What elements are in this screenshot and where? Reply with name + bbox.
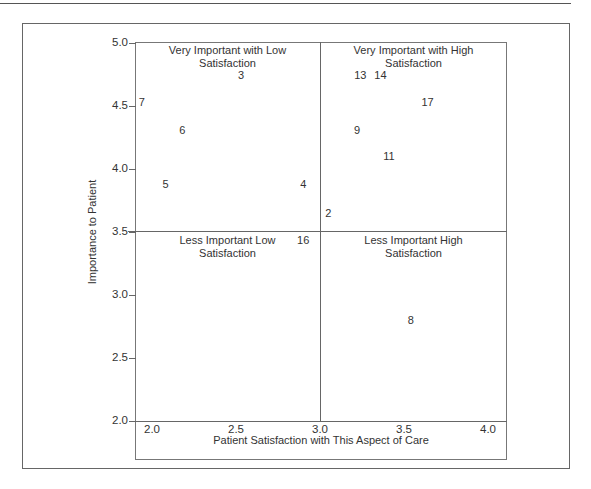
data-point-label: 13 (354, 69, 366, 81)
x-axis-label: Patient Satisfaction with This Aspect of… (135, 434, 507, 446)
quadrant-label-bottom-right: Less Important High Satisfaction (320, 234, 507, 260)
y-tick-mark (129, 295, 136, 296)
quadrant-label-bottom-left: Less Important Low Satisfaction (135, 234, 320, 260)
data-point-label: 5 (162, 178, 168, 190)
y-tick-mark (129, 106, 136, 107)
y-tick-label: 3.0 (98, 288, 128, 300)
quadrant-label-line: Very Important with High (320, 44, 507, 57)
data-point-label: 3 (238, 69, 244, 81)
y-tick-label: 4.5 (98, 99, 128, 111)
quadrant-label-top-left: Very Important with Low Satisfaction (135, 44, 320, 70)
quadrant-label-line: Less Important Low (135, 234, 320, 247)
data-point-label: 6 (179, 124, 185, 136)
top-rule (0, 3, 571, 4)
data-point-label: 8 (408, 314, 414, 326)
y-tick-mark (129, 232, 136, 233)
y-tick-label: 2.0 (98, 414, 128, 426)
data-point-label: 4 (300, 178, 306, 190)
data-point-label: 7 (139, 96, 145, 108)
data-point-label: 14 (374, 69, 386, 81)
data-point-label: 2 (325, 207, 331, 219)
quadrant-label-line: Satisfaction (320, 57, 507, 70)
data-point-label: 16 (297, 234, 309, 246)
y-tick-label: 5.0 (98, 36, 128, 48)
y-tick-label: 2.5 (98, 351, 128, 363)
quadrant-label-line: Satisfaction (135, 57, 320, 70)
quadrant-label-line: Less Important High (320, 234, 507, 247)
y-tick-label: 3.5 (98, 225, 128, 237)
horizontal-quadrant-divider (128, 231, 507, 232)
y-tick-mark (129, 169, 136, 170)
data-point-label: 11 (383, 150, 394, 162)
quadrant-label-line: Satisfaction (135, 247, 320, 260)
y-tick-mark (129, 358, 136, 359)
data-point-label: 17 (421, 96, 433, 108)
y-tick-label: 4.0 (98, 162, 128, 174)
y-axis-label: Importance to Patient (86, 180, 98, 285)
quadrant-label-line: Satisfaction (320, 247, 507, 260)
data-point-label: 9 (354, 124, 360, 136)
quadrant-label-top-right: Very Important with High Satisfaction (320, 44, 507, 70)
y-tick-mark (129, 421, 136, 422)
x-axis-line (135, 421, 507, 422)
quadrant-label-line: Very Important with Low (135, 44, 320, 57)
